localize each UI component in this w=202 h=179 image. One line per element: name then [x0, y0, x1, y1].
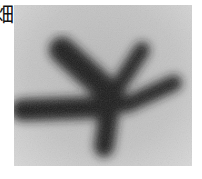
star-shape-blob — [14, 5, 192, 166]
caption-text-fragment: 畑 — [0, 4, 14, 26]
grayscale-photo — [14, 5, 192, 166]
